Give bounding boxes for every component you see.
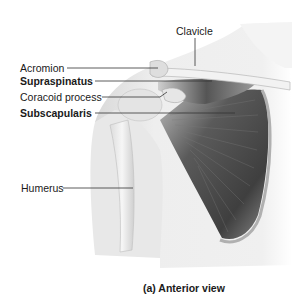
label-acromion: Acromion (20, 62, 64, 74)
label-coracoid-process: Coracoid process (20, 91, 102, 103)
acromion-bone (150, 60, 168, 77)
label-humerus: Humerus (21, 182, 64, 194)
shoulder-anatomy-illustration (0, 0, 306, 304)
label-supraspinatus: Supraspinatus (20, 75, 93, 87)
label-clavicle: Clavicle (176, 25, 213, 37)
label-subscapularis: Subscapularis (20, 107, 92, 119)
figure-caption: (a) Anterior view (143, 282, 225, 294)
